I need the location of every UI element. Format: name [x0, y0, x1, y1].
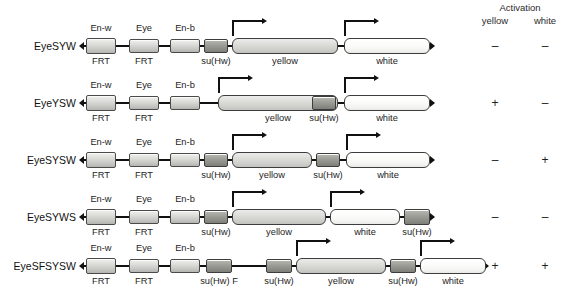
- element-en-b: [170, 96, 200, 110]
- promoter-arrow-yellow: [218, 77, 258, 93]
- label-gene-yellow: yellow: [311, 276, 371, 287]
- construct-row: EyeSYSW En-w FRT Eye FRT En-b su(Hw) yel…: [0, 132, 580, 188]
- activation-mark-white: –: [520, 40, 570, 52]
- promoter-arrow-yellow: [232, 20, 272, 36]
- label-en-w: En-w: [81, 137, 121, 148]
- label-su-hw-1: su(Hw): [194, 170, 238, 181]
- label-frt-1: FRT: [83, 170, 119, 181]
- element-eye: [129, 153, 159, 167]
- element-su-hw-2: [390, 259, 416, 273]
- promoter-arrow-white: [420, 240, 460, 256]
- activation-mark-yellow: –: [470, 211, 520, 223]
- backbone-right-cap: [430, 213, 435, 221]
- promoter-arrow-yellow: [232, 134, 272, 150]
- element-en-b: [170, 153, 200, 167]
- construct-name: EyeSYW: [34, 40, 76, 52]
- gene-yellow: [232, 209, 326, 225]
- label-en-w: En-w: [81, 243, 121, 254]
- element-su-hw-2: [316, 153, 340, 167]
- label-frt-2: FRT: [126, 276, 162, 287]
- label-su-hw-2: su(Hw): [378, 276, 428, 287]
- element-eye: [129, 39, 159, 53]
- promoter-arrow-white: [344, 77, 384, 93]
- label-su-hw-1: su(Hw): [254, 276, 304, 287]
- gene-white: [344, 95, 430, 111]
- label-en-w: En-w: [81, 80, 121, 91]
- label-eye: Eye: [124, 243, 164, 254]
- activation-mark-white: –: [520, 97, 570, 109]
- element-eye: [129, 96, 159, 110]
- backbone-right-cap: [430, 42, 435, 50]
- construct-name: EyeYSW: [34, 97, 76, 109]
- element-eye: [129, 259, 159, 273]
- activation-mark-yellow: +: [470, 260, 520, 272]
- element-su-hw-1: [204, 153, 228, 167]
- activation-mark-white: +: [520, 154, 570, 166]
- label-frt-1: FRT: [83, 113, 119, 124]
- backbone-left-cap: [79, 213, 84, 221]
- label-en-w: En-w: [81, 194, 121, 205]
- label-gene-white: white: [423, 276, 483, 287]
- element-en-b: [170, 259, 200, 273]
- construct-row: EyeYSW En-w FRT Eye FRT En-b yellow su(H…: [0, 75, 580, 131]
- construct-name: EyeSFSYSW: [14, 260, 76, 272]
- element-su-hw-1: [312, 96, 336, 110]
- element-su-hw-2: [404, 209, 430, 225]
- gene-yellow: [232, 152, 312, 168]
- backbone-left-cap: [79, 42, 84, 50]
- label-gene-yellow: yellow: [242, 170, 302, 181]
- label-en-b: En-b: [165, 80, 205, 91]
- backbone-left-cap: [79, 99, 84, 107]
- label-en-w: En-w: [81, 23, 121, 34]
- gene-white: [330, 209, 400, 225]
- construct-row: EyeSYWS En-w FRT Eye FRT En-b su(Hw) yel…: [0, 189, 580, 245]
- promoter-arrow-white: [346, 134, 386, 150]
- activation-mark-yellow: +: [470, 97, 520, 109]
- label-frt-2: FRT: [126, 170, 162, 181]
- label-eye: Eye: [124, 137, 164, 148]
- label-frt-2: FRT: [126, 56, 162, 67]
- activation-mark-yellow: –: [470, 154, 520, 166]
- gene-yellow: [296, 258, 386, 274]
- backbone-left-cap: [79, 156, 84, 164]
- label-su-hw-2: su(Hw): [306, 170, 350, 181]
- label-gene-white: white: [335, 227, 395, 238]
- label-gene-yellow: yellow: [248, 113, 308, 124]
- promoter-arrow-yellow: [232, 191, 272, 207]
- label-gene-white: white: [357, 56, 417, 67]
- element-su-hw-1: [204, 39, 228, 53]
- label-gene-white: white: [357, 113, 417, 124]
- element-eye: [129, 210, 159, 224]
- label-frt-2: FRT: [126, 113, 162, 124]
- gene-white: [346, 152, 430, 168]
- backbone-right-cap: [430, 156, 435, 164]
- label-frt-1: FRT: [83, 276, 119, 287]
- activation-mark-white: +: [520, 260, 570, 272]
- element-en-w: [86, 209, 116, 225]
- label-eye: Eye: [124, 194, 164, 205]
- promoter-arrow-white: [344, 20, 384, 36]
- label-gene-yellow: yellow: [249, 227, 309, 238]
- label-su-hw-1: su(Hw): [194, 227, 238, 238]
- element-su-hw-1: [266, 259, 292, 273]
- gene-yellow: [232, 38, 338, 54]
- element-en-b: [170, 39, 200, 53]
- activation-header-label: Activation: [490, 2, 550, 13]
- label-gene-white: white: [358, 170, 418, 181]
- label-en-b: En-b: [165, 194, 205, 205]
- label-eye: Eye: [124, 80, 164, 91]
- label-su-hw-1: su(Hw): [194, 56, 238, 67]
- label-gene-yellow: yellow: [255, 56, 315, 67]
- gene-white: [344, 38, 430, 54]
- label-su-hw-1: su(Hw): [302, 113, 346, 124]
- label-frt-1: FRT: [83, 227, 119, 238]
- label-en-b: En-b: [165, 23, 205, 34]
- label-en-b: En-b: [165, 243, 205, 254]
- construct-name: EyeSYSW: [27, 154, 76, 166]
- label-en-b: En-b: [165, 137, 205, 148]
- element-en-w: [86, 95, 116, 111]
- label-frt-1: FRT: [83, 56, 119, 67]
- element-en-w: [86, 38, 116, 54]
- element-en-w: [86, 152, 116, 168]
- backbone-right-cap: [430, 99, 435, 107]
